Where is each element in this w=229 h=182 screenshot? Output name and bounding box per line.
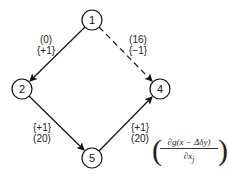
edge-1-2-label-top: (0): [34, 34, 58, 45]
formula-numerator: ∂g(x − Δδy): [160, 137, 218, 149]
partial-derivative-formula: ( ∂g(x − Δδy) ∂xj ): [152, 135, 226, 167]
formula-close-paren: ): [218, 135, 228, 165]
node-2-label: 2: [12, 79, 32, 99]
formula-denominator-main: ∂x: [184, 151, 192, 161]
edge-2-5-label-bottom: (20): [28, 133, 56, 144]
formula-denominator-subscript: j: [192, 155, 194, 164]
formula-denominator: ∂xj: [160, 151, 218, 164]
edge-1-2-label-bottom: {+1}: [32, 45, 60, 56]
edge-2-5-label-top: {+1}: [28, 122, 56, 133]
node-4-label: 4: [150, 79, 170, 99]
edge-1-4-label-top: (16): [124, 34, 152, 45]
edge-5-4-label-top: {+1}: [126, 122, 154, 133]
node-5-label: 5: [82, 148, 102, 168]
edge-1-4-label-bottom: {−1}: [124, 45, 152, 56]
node-1-label: 1: [82, 10, 102, 30]
edge-5-4-label-bottom: (20): [126, 133, 154, 144]
